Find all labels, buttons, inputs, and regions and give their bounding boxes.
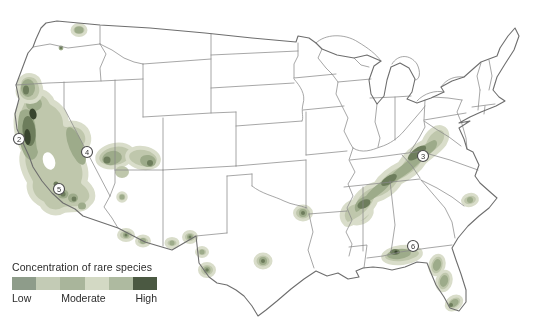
legend-swatch-1	[36, 277, 60, 290]
legend-title: Concentration of rare species	[12, 261, 162, 273]
site-marker-6: 6	[408, 241, 419, 252]
legend: Concentration of rare species LowModerat…	[12, 261, 162, 304]
legend-swatch-4	[109, 277, 133, 290]
rare-species-map-figure: 23456 Concentration of rare species LowM…	[0, 0, 547, 327]
site-marker-number: 6	[411, 242, 415, 251]
legend-scale-labels: LowModerateHigh	[12, 292, 157, 304]
legend-swatch-0	[12, 277, 36, 290]
site-marker-4: 4	[82, 147, 93, 158]
legend-swatch-5	[133, 277, 157, 290]
site-marker-5: 5	[54, 184, 65, 195]
legend-label-moderate: Moderate	[61, 292, 105, 304]
legend-swatch-2	[60, 277, 84, 290]
site-marker-2: 2	[14, 134, 25, 145]
legend-swatch-3	[85, 277, 109, 290]
legend-color-bar	[12, 277, 157, 290]
legend-label-low: Low	[12, 292, 31, 304]
site-marker-number: 4	[85, 148, 89, 157]
site-marker-number: 5	[57, 185, 61, 194]
legend-label-high: High	[135, 292, 157, 304]
site-marker-number: 2	[17, 135, 21, 144]
site-marker-3: 3	[418, 151, 429, 162]
site-marker-number: 3	[421, 152, 425, 161]
